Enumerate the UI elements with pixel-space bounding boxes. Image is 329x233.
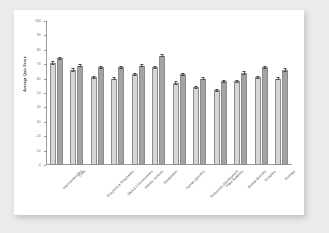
bar-groups [46, 21, 292, 165]
error-bar [133, 73, 136, 76]
bar-group [231, 21, 252, 165]
bar [98, 67, 104, 165]
bar [50, 63, 56, 165]
x-axis-label: Evolution [251, 167, 272, 213]
error-bar [277, 77, 280, 80]
bar [159, 56, 165, 165]
x-axis-label: Cells [67, 167, 88, 213]
error-bar [99, 66, 102, 69]
error-bar [202, 77, 205, 80]
error-bar [236, 80, 239, 83]
y-axis-tick-label: 80 [37, 48, 41, 52]
bar [111, 79, 117, 165]
y-axis-tick-label: 30 [37, 120, 41, 124]
error-bar [215, 89, 218, 92]
x-axis-label: Plant Anatomy [210, 167, 231, 213]
error-bar [195, 86, 198, 89]
x-axis-label: Metabolism [149, 167, 170, 213]
x-axis-label: Animal diversity [231, 167, 252, 213]
y-axis-tick-label: 20 [37, 135, 41, 139]
y-axis-tick-label: 0 [39, 163, 41, 167]
chart-card: Average Quiz Score 100908070605040302010… [14, 10, 304, 215]
bar [180, 74, 186, 165]
y-axis-title: Average Quiz Score [23, 34, 27, 114]
bar [262, 67, 268, 165]
bar [152, 67, 158, 165]
error-bar [161, 54, 164, 57]
bar [282, 70, 288, 165]
error-bar [58, 57, 61, 60]
bar [118, 67, 124, 165]
page-wrapper: Average Quiz Score 100908070605040302010… [0, 0, 329, 233]
x-axis-label: Ecology [272, 167, 293, 213]
bar [193, 87, 199, 165]
bar-chart: Average Quiz Score 100908070605040302010… [14, 10, 304, 215]
error-bar [92, 76, 95, 79]
y-axis-tick-label: 70 [37, 63, 41, 67]
error-bar [263, 66, 266, 69]
error-bar [120, 66, 123, 69]
bar [70, 70, 76, 165]
x-axis-label: Embryonic development [190, 167, 211, 213]
x-axis-label: DNA & Chromosomes [108, 167, 129, 213]
error-bar [181, 73, 184, 76]
plot-area: 1009080706050403020100 [46, 21, 292, 165]
y-axis-tick-label: 60 [37, 77, 41, 81]
x-axis-labels: MacromoleculesCellsEnzymes & Respiration… [46, 167, 292, 213]
error-bar [174, 81, 177, 84]
bar [214, 90, 220, 165]
y-axis-tick-label: 90 [37, 34, 41, 38]
bar-group [272, 21, 293, 165]
bar [255, 77, 261, 165]
y-axis-tick-label: 50 [37, 91, 41, 95]
error-bar [243, 71, 246, 74]
bar [234, 81, 240, 165]
x-axis-label: Enzymes & Respiration [87, 167, 108, 213]
error-bar [154, 66, 157, 69]
bar-group [128, 21, 149, 165]
bar [139, 66, 145, 165]
bar-group [46, 21, 67, 165]
bar [77, 66, 83, 165]
y-axis-tick-label: 10 [37, 149, 41, 153]
bar [91, 77, 97, 165]
bar [132, 74, 138, 165]
bar-group [149, 21, 170, 165]
error-bar [113, 77, 116, 80]
bar [57, 58, 63, 165]
bar [221, 81, 227, 165]
error-bar [51, 61, 54, 64]
bar [275, 79, 281, 165]
bar-group [169, 21, 190, 165]
bar-group [67, 21, 88, 165]
bar-group [190, 21, 211, 165]
bar-group [251, 21, 272, 165]
error-bar [140, 64, 143, 67]
x-axis-label-text: Cells [78, 169, 86, 177]
x-axis-label: Macromolecules [46, 167, 67, 213]
bar-group [210, 21, 231, 165]
error-bar [256, 76, 259, 79]
y-axis-tick-label: 40 [37, 106, 41, 110]
error-bar [79, 64, 82, 67]
error-bar [72, 68, 75, 71]
error-bar [284, 68, 287, 71]
bar [241, 73, 247, 165]
x-axis-label-text: Ecology [284, 169, 296, 181]
x-axis-label: Mitosis, meiosis [128, 167, 149, 213]
bar [200, 79, 206, 165]
y-axis-tick: 0 [44, 165, 47, 166]
bar-group [108, 21, 129, 165]
y-axis-tick-label: 100 [35, 19, 41, 23]
x-axis-label: Human genetics [169, 167, 190, 213]
bar-group [87, 21, 108, 165]
bar [173, 83, 179, 165]
error-bar [222, 80, 225, 83]
